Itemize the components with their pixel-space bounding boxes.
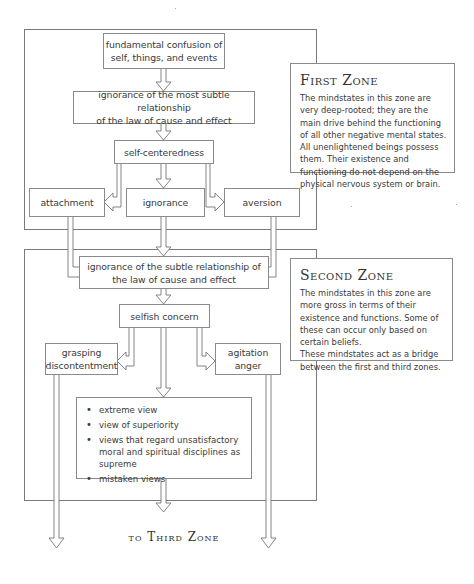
arrow-down-icon	[156, 288, 171, 304]
node-text: ignorance of the subtle relationship of	[87, 260, 261, 273]
views-list-box: extreme view view of superiority views t…	[76, 397, 252, 479]
second-zone-description: The mindstates in this zone are more gro…	[300, 287, 445, 348]
scan-speck	[175, 8, 176, 9]
node-text: anger	[228, 359, 268, 372]
second-zone-description: These mindstates act as a bridge between…	[300, 348, 445, 373]
node-text: self-centeredness	[124, 146, 204, 159]
scan-speck	[456, 204, 457, 205]
node-ignorance-most-subtle: ignorance of the most subtle relationshi…	[73, 91, 255, 124]
views-list-item: views that regard unsatisfactory moral a…	[85, 434, 245, 470]
arrow-down-icon	[261, 374, 276, 548]
first-zone-description: All unenlightened beings possess them. T…	[300, 141, 447, 190]
node-aversion: aversion	[224, 188, 300, 217]
node-fundamental-confusion: fundamental confusion ofself, things, an…	[103, 33, 225, 69]
node-text: discontentment	[46, 359, 118, 372]
first-zone-callout: First Zone The mindstates in this zone a…	[290, 63, 455, 173]
node-text: the law of cause and effect	[87, 273, 261, 286]
first-zone-title: First Zone	[300, 72, 447, 88]
node-text: self, things, and events	[106, 51, 223, 64]
arrow-down-icon	[156, 327, 171, 397]
arrow-down-icon	[156, 216, 171, 256]
second-zone-title: Second Zone	[300, 267, 445, 283]
node-text: ignorance of the most subtle relationshi…	[74, 88, 254, 114]
node-text: selfish concern	[130, 310, 198, 323]
arrow-bend-right-icon	[206, 163, 224, 211]
node-text: attachment	[40, 196, 93, 209]
node-ignorance: ignorance	[126, 188, 205, 217]
node-self-centeredness: self-centeredness	[114, 140, 214, 164]
views-list-item: extreme view	[85, 404, 245, 416]
node-text: fundamental confusion of	[106, 38, 223, 51]
views-list: extreme view view of superiority views t…	[85, 404, 245, 485]
arrow-down-icon	[49, 374, 64, 548]
arrow-bend-right-icon	[197, 327, 215, 370]
views-list-item: view of superiority	[85, 419, 245, 431]
node-grasping: graspingdiscontentment	[45, 343, 118, 375]
node-text: of the law of cause and effect	[74, 114, 254, 127]
node-text: grasping	[46, 346, 118, 359]
node-attachment: attachment	[29, 188, 105, 217]
node-agitation: agitationanger	[215, 343, 281, 375]
node-selfish-concern: selfish concern	[119, 304, 210, 328]
node-text: agitation	[228, 346, 268, 359]
scan-speck	[351, 206, 352, 207]
arrow-down-icon	[156, 163, 171, 188]
node-ignorance-subtle: ignorance of the subtle relationship oft…	[79, 256, 269, 289]
node-text: aversion	[243, 196, 282, 209]
arrow-bend-left-icon	[117, 327, 134, 370]
second-zone-callout: Second Zone The mindstates in this zone …	[290, 258, 453, 361]
third-zone-label: to Third Zone	[104, 530, 244, 544]
first-zone-description: The mindstates in this zone are very dee…	[300, 92, 447, 141]
node-text: ignorance	[143, 196, 188, 209]
views-list-item: mistaken views	[85, 473, 245, 485]
arrow-bend-left-icon	[104, 163, 121, 211]
